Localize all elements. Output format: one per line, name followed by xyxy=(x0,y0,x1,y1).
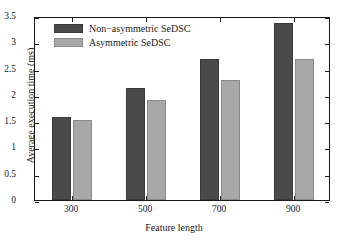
legend-swatch-icon xyxy=(54,38,83,47)
bar xyxy=(52,117,71,200)
x-axis-tick-label: 900 xyxy=(263,204,323,214)
x-axis-tick xyxy=(294,18,295,22)
bar xyxy=(221,80,240,200)
y-axis-tick xyxy=(325,44,329,45)
legend-item: Asymmetric SeDSC xyxy=(54,36,224,49)
y-axis-tick-label: 1.5 xyxy=(0,117,16,127)
y-axis-tick xyxy=(325,149,329,150)
y-axis-tick-label: 0 xyxy=(0,196,16,206)
y-axis-tick xyxy=(35,44,39,45)
chart-figure: Average execution time (ms) Feature leng… xyxy=(0,0,348,242)
y-axis-tick-label: 3 xyxy=(0,38,16,48)
chart-legend: Non−asymmetric SeDSC Asymmetric SeDSC xyxy=(54,22,224,50)
y-axis-tick-label: 2.5 xyxy=(0,65,16,75)
y-axis-tick xyxy=(325,123,329,124)
y-axis-tick-label: 2 xyxy=(0,91,16,101)
bar xyxy=(295,59,314,200)
y-axis-tick xyxy=(325,18,329,19)
legend-item: Non−asymmetric SeDSC xyxy=(54,22,224,35)
bar xyxy=(126,88,145,200)
legend-label: Asymmetric SeDSC xyxy=(89,38,170,48)
y-axis-tick xyxy=(325,71,329,72)
y-axis-tick xyxy=(35,97,39,98)
legend-label: Non−asymmetric SeDSC xyxy=(89,24,190,34)
y-axis-tick xyxy=(325,176,329,177)
x-axis-tick-label: 300 xyxy=(41,204,101,214)
y-axis-tick xyxy=(35,149,39,150)
bar xyxy=(73,120,92,200)
y-axis-tick xyxy=(35,202,39,203)
y-axis-tick-label: 3.5 xyxy=(0,12,16,22)
y-axis-tick xyxy=(35,18,39,19)
y-axis-tick xyxy=(35,176,39,177)
x-axis-tick-label: 500 xyxy=(115,204,175,214)
legend-swatch-icon xyxy=(54,24,83,33)
bar xyxy=(147,100,166,200)
y-axis-tick-label: 0.5 xyxy=(0,170,16,180)
y-axis-tick xyxy=(35,71,39,72)
y-axis-tick xyxy=(325,97,329,98)
bar xyxy=(200,59,219,200)
y-axis-tick xyxy=(35,123,39,124)
x-axis-title: Feature length xyxy=(0,222,348,233)
bar xyxy=(274,23,293,200)
x-axis-tick-label: 700 xyxy=(189,204,249,214)
y-axis-tick xyxy=(325,202,329,203)
y-axis-tick-label: 1 xyxy=(0,143,16,153)
plot-area: Non−asymmetric SeDSC Asymmetric SeDSC xyxy=(34,17,330,201)
